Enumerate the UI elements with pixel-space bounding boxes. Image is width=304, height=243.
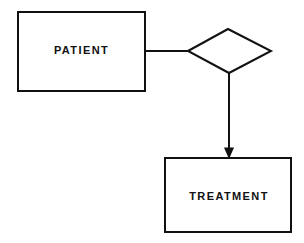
diagram-canvas: PATIENT TREATMENT (0, 0, 304, 243)
entity-label-treatment: TREATMENT (189, 190, 269, 202)
relationship-diamond[interactable] (188, 29, 271, 73)
er-diagram: PATIENT TREATMENT (0, 0, 304, 243)
entity-label-patient: PATIENT (54, 44, 109, 56)
